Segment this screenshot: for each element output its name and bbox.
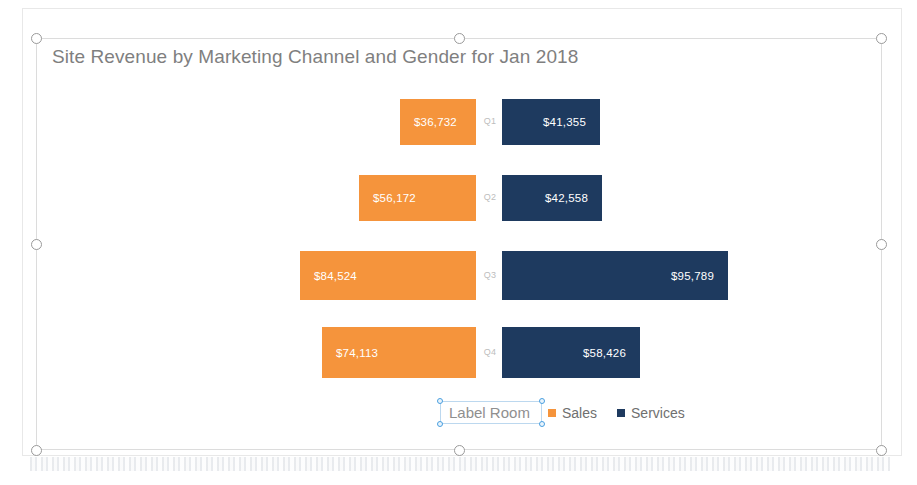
bar-services-q2[interactable]: $42,558 <box>502 175 602 221</box>
legend-label: Sales <box>562 405 597 421</box>
bar-value-label: $58,426 <box>583 347 626 359</box>
legend-swatch-icon <box>548 409 556 417</box>
textbox-handle-bottom-left[interactable] <box>437 421 443 427</box>
bar-services-q1[interactable]: $41,355 <box>502 99 600 145</box>
bar-value-label: $56,172 <box>373 192 416 204</box>
bar-services-q4[interactable]: $58,426 <box>502 327 640 378</box>
selection-handle-bottom-left[interactable] <box>31 445 42 456</box>
textbox-handle-bottom-right[interactable] <box>539 421 545 427</box>
bar-sales-q1[interactable]: $36,732 <box>400 99 476 145</box>
bar-services-q3[interactable]: $95,789 <box>502 251 728 300</box>
category-label-q2: Q2 <box>477 192 503 202</box>
selection-handle-middle-left[interactable] <box>31 239 42 250</box>
bar-value-label: $36,732 <box>414 116 457 128</box>
textbox-handle-top-left[interactable] <box>437 398 443 404</box>
selection-handle-top-left[interactable] <box>31 33 42 44</box>
bar-value-label: $42,558 <box>545 192 588 204</box>
legend-swatch-icon <box>617 409 625 417</box>
bar-sales-q3[interactable]: $84,524 <box>300 251 476 300</box>
bar-value-label: $74,113 <box>336 347 378 359</box>
label-room-textbox[interactable]: Label Room <box>440 401 542 424</box>
category-label-q3: Q3 <box>477 270 503 280</box>
selection-handle-bottom-right[interactable] <box>876 445 887 456</box>
selection-handle-bottom-center[interactable] <box>454 445 465 456</box>
bar-sales-q2[interactable]: $56,172 <box>359 175 476 221</box>
textbox-handle-top-right[interactable] <box>539 398 545 404</box>
category-label-q1: Q1 <box>477 116 503 126</box>
bar-value-label: $84,524 <box>314 270 357 282</box>
slide-canvas: Site Revenue by Marketing Channel and Ge… <box>0 0 917 485</box>
bar-value-label: $41,355 <box>543 116 586 128</box>
legend-entry-services[interactable]: Services <box>617 405 685 421</box>
bar-row: $36,732Q1$41,355 <box>0 99 917 145</box>
category-label-q4: Q4 <box>477 347 503 357</box>
bar-row: $56,172Q2$42,558 <box>0 175 917 221</box>
bar-row: $84,524Q3$95,789 <box>0 251 917 300</box>
bar-sales-q4[interactable]: $74,113 <box>322 327 476 378</box>
bar-value-label: $95,789 <box>671 270 714 282</box>
legend-label: Services <box>631 405 685 421</box>
bar-row: $74,113Q4$58,426 <box>0 327 917 378</box>
selection-handle-top-right[interactable] <box>876 33 887 44</box>
label-room-text: Label Room <box>449 404 530 421</box>
selection-handle-middle-right[interactable] <box>876 239 887 250</box>
selection-handle-top-center[interactable] <box>454 33 465 44</box>
legend-entry-sales[interactable]: Sales <box>548 405 597 421</box>
